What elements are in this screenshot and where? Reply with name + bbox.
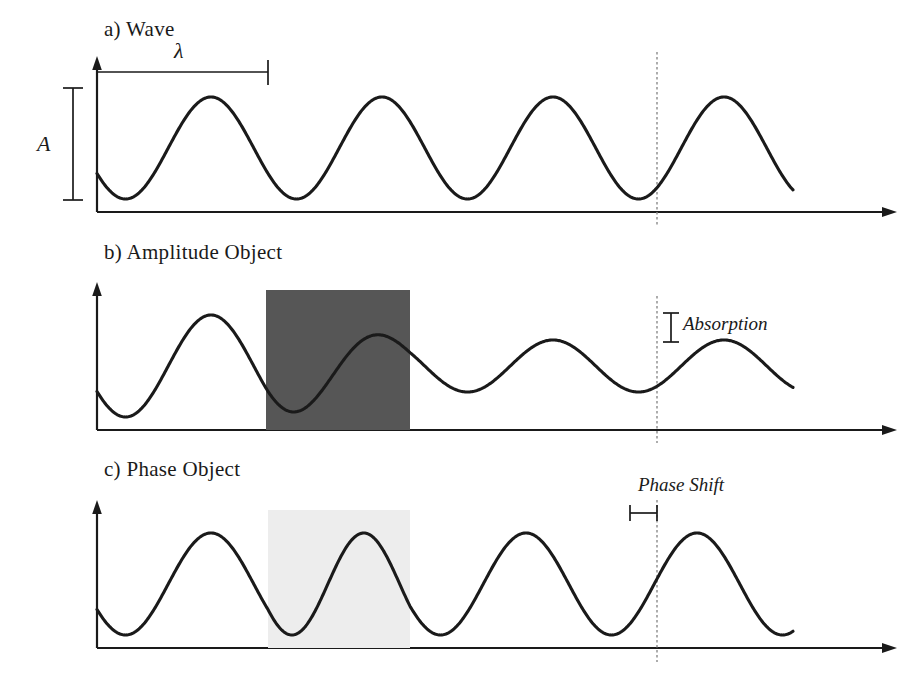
panel-wave-y-axis [92,56,102,212]
panel-phase-y-axis [92,500,102,648]
panel-amplitude-y-axis [92,282,102,430]
absorption-bracket [663,313,679,342]
panel-title-phase-object: c) Phase Object [104,457,240,482]
wave-optics-figure [0,0,919,695]
amplitude-symbol: A [37,131,50,157]
panel-phase-x-axis [97,643,897,653]
panel-wave-x-axis [97,207,897,217]
wave-curve-a [97,97,793,199]
panel-amplitude-object [92,282,897,443]
wavelength-symbol: λ [174,38,184,64]
panel-title-wave: a) Wave [104,17,175,42]
phase-shift-label: Phase Shift [638,474,724,496]
panel-phase-object [92,500,897,662]
wave-curve-c [97,533,793,635]
phase-shift-bracket [630,505,657,521]
absorber-block [266,290,410,430]
absorption-label: Absorption [683,313,767,335]
amplitude-bracket [63,88,83,200]
panel-wave [63,52,897,225]
phase-plate-block [268,510,410,648]
panel-title-amplitude-object: b) Amplitude Object [104,240,282,265]
panel-amplitude-x-axis [97,425,897,435]
